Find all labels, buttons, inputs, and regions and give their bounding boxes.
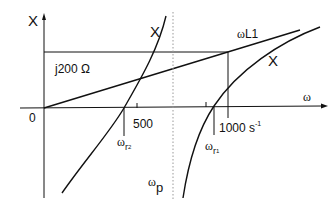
diagram-canvas xyxy=(0,0,336,208)
x-axis-arrow xyxy=(321,104,328,109)
x-axis-label: ω xyxy=(303,91,311,103)
tick-1000-text: 1000 s xyxy=(219,121,255,135)
subscript-p: p xyxy=(156,180,163,195)
subscript-1: 1 xyxy=(216,148,219,154)
l1-text: L1 xyxy=(245,27,258,41)
omega-r1-label: ωr1 xyxy=(205,140,219,157)
y-axis-arrow xyxy=(42,13,46,20)
reactance-curve-left xyxy=(62,16,166,193)
omega-symbol: ω xyxy=(117,135,125,149)
curve-left-label: X xyxy=(150,24,160,39)
reactance-curve-right xyxy=(183,27,320,198)
reference-line-label: j200 Ω xyxy=(55,63,90,75)
omega-symbol: ω xyxy=(148,175,156,189)
y-axis-label: X xyxy=(28,13,38,28)
omega-p-label: ωp xyxy=(148,176,163,194)
tick-500-label: 500 xyxy=(133,118,153,130)
tick-1000-label: 1000 s-1 xyxy=(219,118,261,134)
curve-right-label: X xyxy=(268,53,278,68)
x-axis xyxy=(20,106,322,108)
subscript-2: 2 xyxy=(128,144,131,150)
omega-r2-label: ωr2 xyxy=(117,136,131,153)
omega-l1-label: ωL1 xyxy=(237,28,258,40)
origin-label: 0 xyxy=(29,112,36,124)
omega-symbol: ω xyxy=(205,139,213,153)
omega-symbol: ω xyxy=(237,27,245,41)
tick-1000-sup: -1 xyxy=(255,120,261,127)
